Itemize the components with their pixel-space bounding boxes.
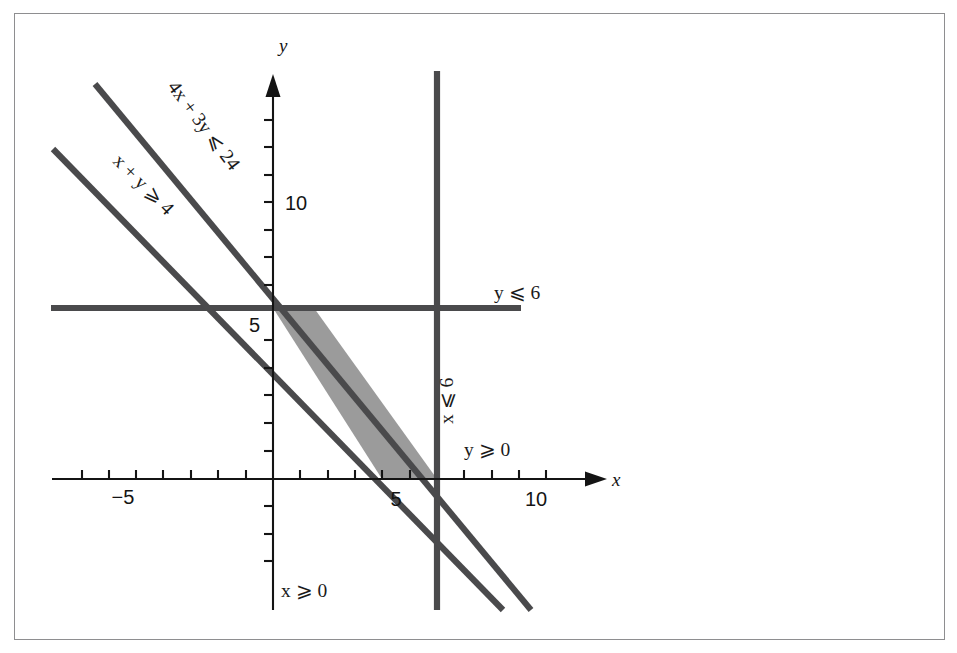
y-tick-label-10: 10 — [285, 192, 307, 214]
figure-root: x y −5 5 10 5 10 4x + 3y ⩽ 24 x + y ⩾ 4 … — [0, 0, 957, 653]
x-axis-label: x — [611, 469, 621, 490]
constraint-label-y-le-6: y ⩽ 6 — [494, 282, 541, 303]
constraint-line-4x-3y-le-24 — [95, 84, 531, 610]
y-tick-label-5: 5 — [249, 314, 260, 336]
x-axis-arrowhead — [585, 472, 607, 487]
constraint-label-4x-3y-le-24: 4x + 3y ⩽ 24 — [164, 77, 245, 174]
y-axis-ticks — [264, 120, 273, 561]
x-tick-label-5: 5 — [390, 488, 401, 510]
figure-frame: x y −5 5 10 5 10 4x + 3y ⩽ 24 x + y ⩾ 4 … — [14, 13, 945, 640]
constraint-label-x-le-6: x ⩽ 6 — [436, 378, 457, 425]
constraint-label-x-ge-0: x ⩾ 0 — [281, 580, 327, 601]
x-tick-label-10: 10 — [525, 488, 547, 510]
constraint-label-x-y-ge-4: x + y ⩾ 4 — [109, 150, 178, 219]
y-axis-label: y — [277, 35, 288, 56]
x-tick-label-minus5: −5 — [112, 486, 135, 508]
coordinate-plot: x y −5 5 10 5 10 4x + 3y ⩽ 24 x + y ⩾ 4 … — [15, 14, 946, 641]
x-axis-ticks — [82, 470, 546, 479]
constraint-label-y-ge-0: y ⩾ 0 — [464, 439, 510, 460]
y-axis-arrowhead — [266, 74, 281, 97]
